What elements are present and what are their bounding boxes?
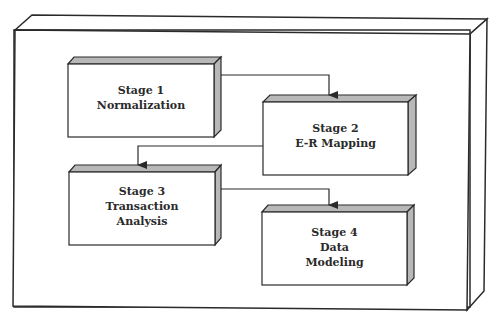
stage-1-title: Stage 1 — [68, 83, 214, 98]
stage-4-title: Stage 4 — [262, 225, 407, 240]
stage-4-label: Stage 4 Data Modeling — [262, 225, 407, 270]
stage-3-title: Stage 3 — [69, 184, 215, 199]
stage-3-label: Stage 3 Transaction Analysis — [69, 184, 215, 229]
stage-2-label: Stage 2 E-R Mapping — [263, 121, 408, 151]
stage-2-name: E-R Mapping — [263, 136, 408, 151]
stage-1-label: Stage 1 Normalization — [68, 83, 214, 113]
stage-3-name-line1: Transaction — [69, 199, 215, 214]
stage-3-name-line2: Analysis — [69, 214, 215, 229]
design-stages-diagram: Stage 1 Normalization Stage 2 E-R Mappin… — [0, 0, 498, 319]
stage-4-name-line2: Modeling — [262, 255, 407, 270]
stage-1-name: Normalization — [68, 98, 214, 113]
stage-2-title: Stage 2 — [263, 121, 408, 136]
stage-4-name-line1: Data — [262, 240, 407, 255]
